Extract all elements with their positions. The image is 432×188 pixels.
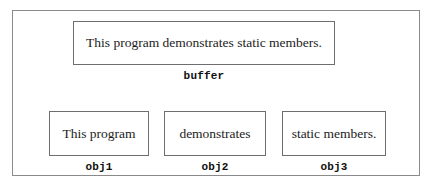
obj3-label: obj3	[282, 161, 386, 173]
obj2-label: obj2	[164, 161, 266, 173]
obj1-label: obj1	[49, 161, 149, 173]
buffer-label: buffer	[73, 70, 335, 82]
buffer-box: This program demonstrates static members…	[73, 21, 335, 65]
diagram-outer-frame: This program demonstrates static members…	[12, 10, 420, 176]
obj3-box: static members.	[282, 111, 386, 156]
obj2-box: demonstrates	[164, 111, 266, 156]
obj2-box-text: demonstrates	[179, 127, 250, 141]
obj3-box-text: static members.	[292, 127, 377, 141]
buffer-box-text: This program demonstrates static members…	[86, 36, 322, 50]
obj1-box: This program	[49, 111, 149, 156]
obj1-box-text: This program	[62, 127, 135, 141]
